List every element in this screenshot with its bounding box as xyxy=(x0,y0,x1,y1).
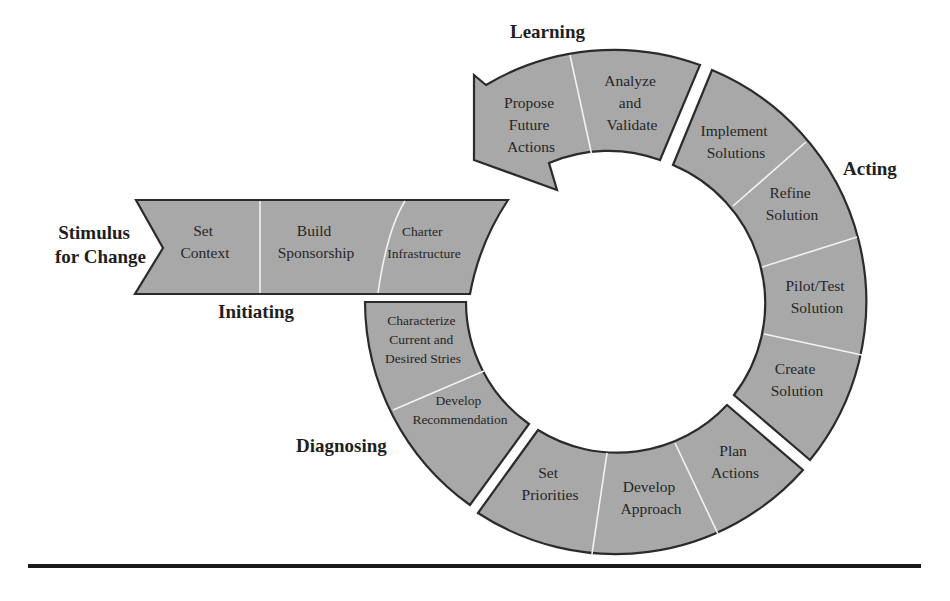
change-cycle-diagram: Stimulus for Change Initiating Learning … xyxy=(0,0,950,601)
stimulus-label: Stimulus xyxy=(58,222,130,243)
step-propose-future-actions: Propose Future Actions xyxy=(504,94,558,155)
phase-label-learning: Learning xyxy=(510,21,585,42)
phase-label-initiating: Initiating xyxy=(218,301,295,322)
for-change-label: for Change xyxy=(55,246,146,267)
step-characterize-current-desired: Characterize Current and Desired Stries xyxy=(385,313,461,366)
phase-label-acting: Acting xyxy=(843,158,897,179)
phase-label-diagnosing: Diagnosing xyxy=(296,435,387,456)
bottom-rule xyxy=(28,564,921,568)
